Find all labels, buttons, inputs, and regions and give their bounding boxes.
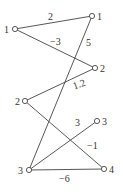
node-right-3 <box>94 118 99 123</box>
weight-L2-R2: 1.2 <box>71 77 87 92</box>
node-left-2-label: 2 <box>15 96 20 107</box>
node-left-3-label: 3 <box>18 165 23 176</box>
node-right-3-label: 3 <box>102 116 107 127</box>
bipartite-graph: 2 −3 5 1.2 −1 3 −6 1 2 3 1 2 3 4 <box>0 0 123 192</box>
node-right-1-label: 1 <box>97 11 102 22</box>
edge-L1-R2 <box>15 29 95 68</box>
node-right-4 <box>101 166 106 171</box>
node-right-4-label: 4 <box>109 164 114 175</box>
weight-L3-R3: 3 <box>75 117 80 128</box>
node-right-2-label: 2 <box>100 63 105 74</box>
node-left-3 <box>26 167 31 172</box>
weight-L3-R4: −6 <box>59 173 70 184</box>
node-left-1-label: 1 <box>4 24 9 35</box>
edge-L3-R4 <box>29 169 104 170</box>
edge-L1-R1 <box>15 16 92 29</box>
edge-L2-R4 <box>25 101 104 169</box>
weight-L2-R4: −1 <box>87 140 98 151</box>
weight-L1-R2: −3 <box>50 36 61 47</box>
weight-L3-R1: 5 <box>86 37 91 48</box>
weight-L1-R1: 2 <box>48 11 53 22</box>
node-left-2 <box>22 98 27 103</box>
node-right-2 <box>92 65 97 70</box>
node-left-1 <box>12 26 17 31</box>
node-right-1 <box>89 13 94 18</box>
